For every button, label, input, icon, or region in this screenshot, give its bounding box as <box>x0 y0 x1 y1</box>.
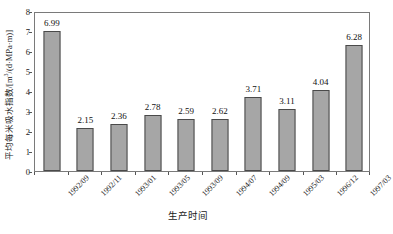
y-axis-tick-mark <box>29 132 32 133</box>
bar-value-label: 2.36 <box>111 112 127 121</box>
bar[interactable] <box>110 124 127 171</box>
x-axis-tick-label: 1994/07 <box>234 174 258 198</box>
x-axis-tick-label: 1994/09 <box>268 174 292 198</box>
y-axis-tick-mark <box>29 12 32 13</box>
bar-value-label: 2.78 <box>145 103 161 112</box>
bar-slot: 6.28 <box>337 13 371 171</box>
bar-slot: 2.62 <box>203 13 237 171</box>
bar-value-label: 6.99 <box>44 19 60 28</box>
x-axis-tick-label: 1997/03 <box>369 174 393 198</box>
bar-value-label: 2.15 <box>78 116 94 125</box>
y-axis-unit-exponent: 3 <box>3 73 9 76</box>
y-axis-tick-mark <box>29 112 32 113</box>
bar[interactable] <box>278 109 295 171</box>
bar-slot: 2.15 <box>69 13 103 171</box>
x-axis-tick-label: 1996/12 <box>335 174 359 198</box>
y-axis-tick-mark <box>29 32 32 33</box>
bar-slot: 6.99 <box>35 13 69 171</box>
y-axis-tick-mark <box>29 152 32 153</box>
bar-value-label: 2.59 <box>178 107 194 116</box>
bar-slot: 2.78 <box>136 13 170 171</box>
bar-value-label: 4.04 <box>313 78 329 87</box>
bar-slot: 3.71 <box>237 13 271 171</box>
bar-slot: 2.59 <box>169 13 203 171</box>
bar-value-label: 3.71 <box>246 85 262 94</box>
y-axis-tick-mark <box>29 172 32 173</box>
plot-area: 6.992.152.362.782.592.623.713.114.046.28 <box>35 13 369 171</box>
bar-value-label: 6.28 <box>346 33 362 42</box>
x-axis-tick-label: 1993/01 <box>134 174 158 198</box>
y-axis-title: 平均每米吸水指数/[m3/(d·MPa·m)] <box>0 0 16 190</box>
x-axis-tick-label: 1992/09 <box>66 174 90 198</box>
x-axis-tick-label: 1995/03 <box>302 174 326 198</box>
bar-value-label: 3.11 <box>279 97 294 106</box>
bar-slot: 2.36 <box>102 13 136 171</box>
bar[interactable] <box>178 119 195 171</box>
y-axis-tick-mark <box>29 72 32 73</box>
bar[interactable] <box>211 119 228 171</box>
y-axis-title-text: 平均每米吸水指数/[m3/(d·MPa·m)] <box>3 30 13 160</box>
bar[interactable] <box>77 128 94 171</box>
x-axis-title: 生产时间 <box>0 212 376 222</box>
bar-slot: 4.04 <box>304 13 338 171</box>
bar-slot: 3.11 <box>270 13 304 171</box>
bar-value-label: 2.62 <box>212 107 228 116</box>
x-axis-tick-label: 1992/11 <box>100 174 124 198</box>
bar[interactable] <box>245 97 262 171</box>
y-axis-tick-mark <box>29 52 32 53</box>
bar[interactable] <box>144 115 161 171</box>
y-axis-tick-labels: 012345678 <box>16 12 32 172</box>
plot-frame: 6.992.152.362.782.592.623.713.114.046.28 <box>34 12 370 172</box>
bar[interactable] <box>346 45 363 171</box>
x-axis-tick-label: 1993/09 <box>201 174 225 198</box>
bar[interactable] <box>312 90 329 171</box>
bar[interactable] <box>43 31 60 171</box>
x-axis-tick-label: 1993/05 <box>167 174 191 198</box>
y-axis-tick-mark <box>29 92 32 93</box>
